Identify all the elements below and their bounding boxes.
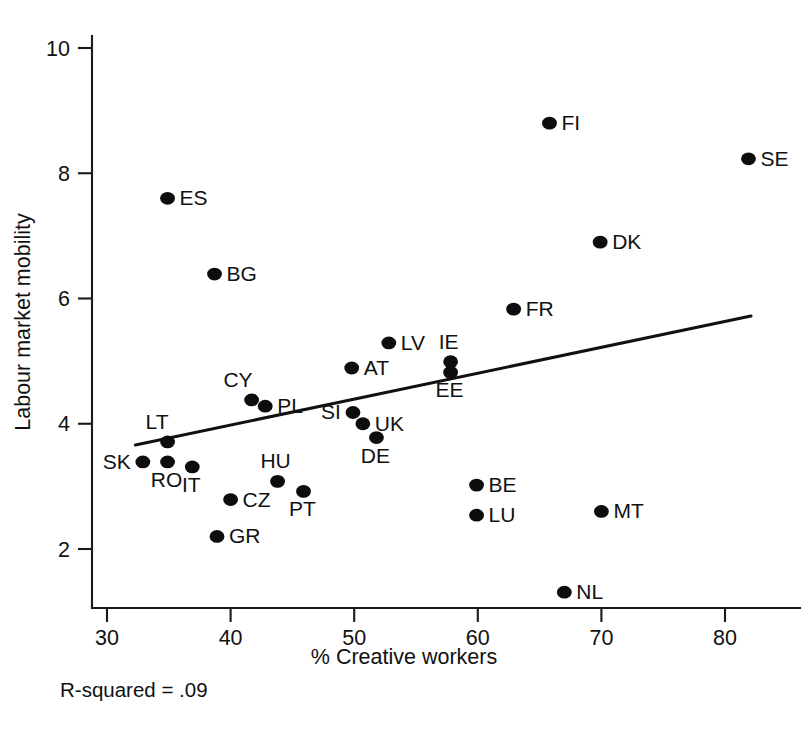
data-point-it[interactable] bbox=[185, 461, 200, 474]
data-point-label-ee: EE bbox=[436, 378, 464, 401]
data-point-label-be: BE bbox=[489, 473, 517, 496]
data-point-label-lu: LU bbox=[489, 503, 516, 526]
data-point-ro[interactable] bbox=[160, 456, 175, 469]
x-tick-label: 80 bbox=[713, 626, 737, 650]
x-axis-title: % Creative workers bbox=[311, 645, 497, 669]
data-point-label-de: DE bbox=[361, 444, 390, 467]
data-point-nl[interactable] bbox=[557, 586, 572, 599]
data-point-ee[interactable] bbox=[443, 366, 458, 379]
data-point-label-nl: NL bbox=[576, 580, 603, 603]
data-point-sk[interactable] bbox=[135, 456, 150, 469]
data-point-label-si: SI bbox=[321, 400, 341, 423]
data-point-es[interactable] bbox=[160, 192, 175, 205]
data-point-label-gr: GR bbox=[229, 524, 261, 547]
data-point-de[interactable] bbox=[369, 431, 384, 444]
data-point-pl[interactable] bbox=[258, 400, 273, 413]
y-tick-label: 4 bbox=[58, 412, 70, 436]
data-point-label-pl: PL bbox=[277, 394, 303, 417]
y-tick-label: 2 bbox=[58, 538, 70, 562]
x-tick-label: 40 bbox=[219, 626, 243, 650]
data-point-label-lt: LT bbox=[146, 410, 169, 433]
data-point-label-es: ES bbox=[180, 186, 208, 209]
data-point-label-fi: FI bbox=[561, 111, 580, 134]
data-point-cy[interactable] bbox=[244, 394, 259, 407]
data-point-label-hu: HU bbox=[260, 449, 290, 472]
data-point-lv[interactable] bbox=[381, 337, 396, 350]
data-point-label-at: AT bbox=[364, 356, 389, 379]
data-point-label-uk: UK bbox=[375, 412, 404, 435]
y-tick-label: 10 bbox=[46, 37, 70, 61]
r-squared-note: R-squared = .09 bbox=[60, 678, 208, 701]
data-point-label-dk: DK bbox=[612, 230, 641, 253]
data-point-label-bg: BG bbox=[227, 262, 257, 285]
data-point-label-ie: IE bbox=[439, 330, 459, 353]
data-point-se[interactable] bbox=[741, 152, 756, 165]
y-tick-group: 246810 bbox=[46, 37, 92, 562]
data-point-label-pt: PT bbox=[289, 497, 316, 520]
y-axis-title: Labour market mobility bbox=[11, 213, 35, 431]
y-tick-label: 6 bbox=[58, 287, 70, 311]
data-point-bg[interactable] bbox=[207, 268, 222, 281]
data-point-uk[interactable] bbox=[355, 417, 370, 430]
axes-group bbox=[92, 36, 800, 608]
data-point-cz[interactable] bbox=[223, 493, 238, 506]
scatter-plot-figure: 246810 304050607080 FISEESDKBGFRLVIEATEE… bbox=[0, 0, 808, 735]
data-point-si[interactable] bbox=[346, 406, 361, 419]
data-point-label-cy: CY bbox=[223, 368, 252, 391]
data-point-fr[interactable] bbox=[506, 303, 521, 316]
data-point-fi[interactable] bbox=[542, 117, 557, 130]
x-tick-label: 70 bbox=[589, 626, 613, 650]
data-point-at[interactable] bbox=[344, 362, 359, 375]
data-point-label-se: SE bbox=[760, 147, 788, 170]
y-tick-label: 8 bbox=[58, 162, 70, 186]
data-point-mt[interactable] bbox=[594, 505, 609, 518]
data-points-group: FISEESDKBGFRLVIEATEECYPLSIUKDELTSKROITHU… bbox=[103, 111, 789, 603]
plot-canvas: 246810 304050607080 FISEESDKBGFRLVIEATEE… bbox=[0, 0, 808, 735]
data-point-gr[interactable] bbox=[210, 530, 225, 543]
data-point-label-ro: RO bbox=[151, 468, 183, 491]
data-point-lu[interactable] bbox=[469, 509, 484, 522]
data-point-be[interactable] bbox=[469, 479, 484, 492]
data-point-pt[interactable] bbox=[296, 485, 311, 498]
data-point-label-mt: MT bbox=[613, 499, 643, 522]
x-tick-group: 304050607080 bbox=[95, 608, 737, 650]
data-point-label-cz: CZ bbox=[243, 488, 271, 511]
data-point-dk[interactable] bbox=[593, 236, 608, 249]
data-point-label-sk: SK bbox=[103, 450, 131, 473]
data-point-lt[interactable] bbox=[160, 436, 175, 449]
data-point-label-lv: LV bbox=[401, 331, 425, 354]
data-point-label-fr: FR bbox=[526, 297, 554, 320]
data-point-label-it: IT bbox=[182, 473, 201, 496]
data-point-hu[interactable] bbox=[270, 475, 285, 488]
x-tick-label: 30 bbox=[95, 626, 119, 650]
